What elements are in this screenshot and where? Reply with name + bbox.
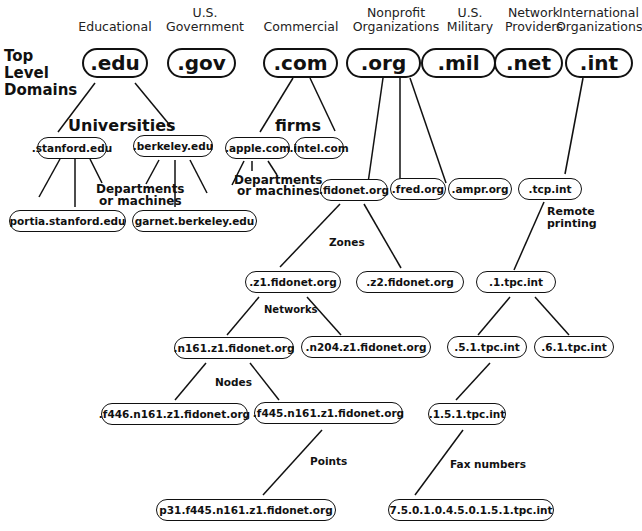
tld-org[interactable]: .org — [346, 48, 421, 78]
label-firms: firms — [275, 116, 321, 135]
tld-net[interactable]: .net — [494, 48, 563, 78]
tld-gov[interactable]: .gov — [167, 48, 236, 78]
label-nodes: Nodes — [215, 376, 252, 388]
node-tcp-int[interactable]: .tcp.int — [518, 178, 582, 200]
top-level-domains-heading: Top Level Domains — [4, 48, 77, 99]
tld-int[interactable]: .int — [565, 48, 633, 78]
label-remote-printing: Remote printing — [547, 206, 597, 230]
label-departments-stanford: Departments or machines — [96, 183, 185, 207]
node-ampr-org[interactable]: .ampr.org — [448, 178, 512, 200]
node-n161-z1-fidonet-org[interactable]: .n161.z1.fidonet.org — [174, 337, 294, 359]
node-fidonet-org[interactable]: .fidonet.org — [320, 179, 388, 201]
node-1-tpc-int[interactable]: .1.tpc.int — [476, 271, 556, 293]
label-universities: Universities — [68, 116, 176, 135]
node-1-5-1-tpc-int[interactable]: .1.5.1.tpc.int — [428, 403, 506, 425]
node-n204-z1-fidonet-org[interactable]: .n204.z1.fidonet.org — [301, 336, 431, 358]
node-z1-fidonet-org[interactable]: .z1.fidonet.org — [245, 271, 341, 293]
category-us-government: U.S. Government — [164, 6, 246, 34]
label-networks: Networks — [264, 304, 318, 316]
node-fred-org[interactable]: .fred.org — [390, 178, 446, 200]
tld-mil[interactable]: .mil — [421, 48, 496, 78]
label-zones: Zones — [329, 236, 365, 248]
node-berkeley-edu[interactable]: .berkeley.edu — [133, 135, 213, 157]
node-p31-f445-n161-z1-fidonet-org[interactable]: p31.f445.n161.z1.fidonet.org — [156, 499, 336, 521]
node-5-1-tpc-int[interactable]: .5.1.tpc.int — [447, 336, 527, 358]
node-f446-n161-z1-fidonet-org[interactable]: .f446.n161.z1.fidonet.org — [101, 403, 248, 425]
node-apple-com[interactable]: .apple.com — [225, 137, 290, 159]
tld-edu[interactable]: .edu — [82, 48, 148, 78]
node-stanford-edu[interactable]: .stanford.edu — [37, 137, 107, 159]
label-departments-apple: Departments or machines — [234, 175, 323, 197]
category-international: International Organizations — [556, 6, 642, 34]
node-fax-tpc-int[interactable]: 7.5.0.1.0.4.5.0.1.5.1.tpc.int — [388, 499, 554, 521]
label-points: Points — [310, 455, 347, 467]
label-fax-numbers: Fax numbers — [450, 458, 526, 470]
node-z2-fidonet-org[interactable]: .z2.fidonet.org — [356, 271, 464, 293]
node-portia-stanford-edu[interactable]: portia.stanford.edu — [9, 210, 126, 232]
category-commercial: Commercial — [256, 20, 346, 34]
node-6-1-tpc-int[interactable]: .6.1.tpc.int — [534, 336, 614, 358]
node-intel-com[interactable]: .intel.com — [294, 137, 344, 159]
tld-com[interactable]: .com — [263, 48, 338, 78]
node-garnet-berkeley-edu[interactable]: garnet.berkeley.edu — [132, 210, 257, 232]
node-f445-n161-z1-fidonet-org[interactable]: .f445.n161.z1.fidonet.org — [254, 402, 403, 424]
category-educational: Educational — [72, 20, 158, 34]
